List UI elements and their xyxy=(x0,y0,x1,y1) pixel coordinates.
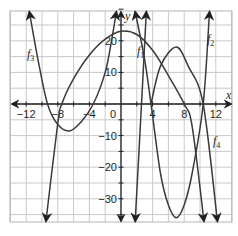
x-axis-label: x xyxy=(225,88,232,102)
y-tick-label: −20 xyxy=(98,161,117,173)
label-f2: f2 xyxy=(207,32,214,48)
y-tick-label: −30 xyxy=(98,193,117,205)
label-f1: f1 xyxy=(137,44,144,60)
curve-f1 xyxy=(46,31,204,221)
function-graph: −12−8−4481202010−10−20−30xy f1f2f3f4 xyxy=(0,0,238,236)
x-tick-label: 12 xyxy=(210,108,222,120)
x-tick-label: 8 xyxy=(181,108,187,120)
y-axis-label: y xyxy=(124,9,131,23)
y-tick-label: −10 xyxy=(98,130,117,142)
label-f4: f4 xyxy=(213,134,220,150)
label-f3: f3 xyxy=(27,47,34,63)
origin-label: 0 xyxy=(110,108,116,120)
x-tick-label: −12 xyxy=(17,108,36,120)
